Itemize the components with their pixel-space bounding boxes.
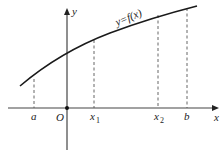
y-axis-arrow-icon <box>64 8 70 15</box>
marker-a-label: a <box>31 110 37 122</box>
curve-f <box>20 6 197 86</box>
origin-point <box>65 106 69 110</box>
marker-x1-label: x <box>89 110 95 122</box>
marker-x1-sub: 1 <box>96 116 100 125</box>
marker-x2-sub: 2 <box>160 116 164 125</box>
y-axis-label: y <box>71 5 77 17</box>
function-graph: y=f(x) y x O a x 1 x 2 b <box>0 0 223 161</box>
x-axis-label: x <box>213 111 219 123</box>
origin-label: O <box>56 111 64 123</box>
marker-b-label: b <box>184 110 190 122</box>
marker-x2-label: x <box>153 110 159 122</box>
